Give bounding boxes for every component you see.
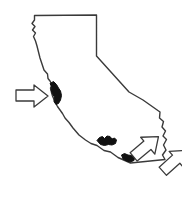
california-map-figure: California state outline map Hand-drawn … [0, 0, 182, 199]
california-map-canvas [0, 0, 182, 199]
